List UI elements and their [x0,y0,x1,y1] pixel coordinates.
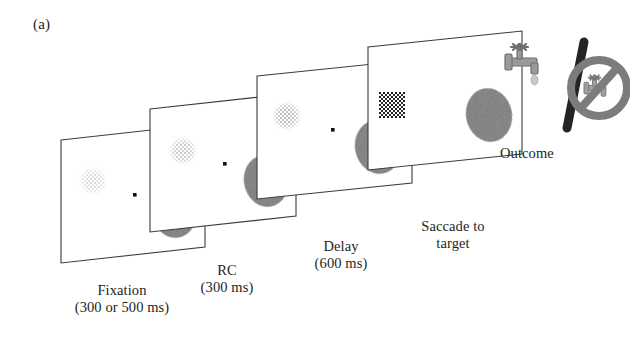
fixation-dot [133,193,137,197]
stage-caption-rc: RC (300 ms) [172,262,282,296]
random-dot-cue-icon [78,166,108,196]
water-faucet-icon [505,44,538,85]
fixation-dot [223,162,227,166]
stage-caption-delay: Delay (600 ms) [288,238,394,272]
water-drop-icon [531,75,538,85]
stage-caption-outcome: Outcome [500,145,624,162]
random-dot-cue-icon [272,101,302,131]
random-dot-cue-icon [168,136,198,166]
outcome-icon-group [498,36,630,140]
stage-caption-saccade: Saccade to target [398,218,508,252]
random-dot-cue-icon [379,92,405,118]
fixation-dot [331,128,335,132]
experimental-paradigm-figure: (a) [0,0,637,361]
